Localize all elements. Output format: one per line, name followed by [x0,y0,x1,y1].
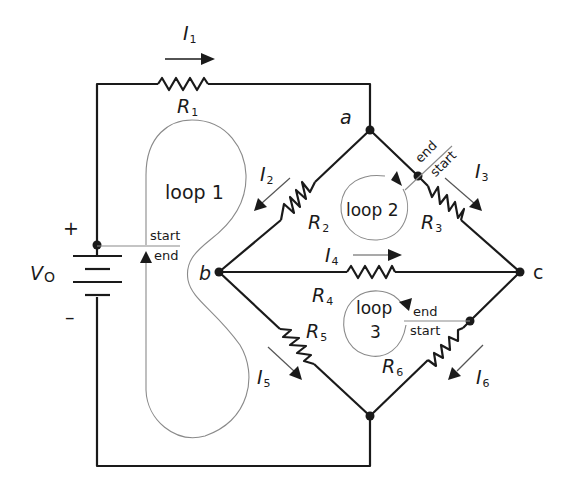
i4-arrowhead [388,249,402,261]
node-a-dot [366,126,375,135]
resistor-r6-label: R6 [382,357,403,376]
wire-b-r5 [219,272,280,329]
loop1-label: loop 1 [165,183,224,202]
source-vo-label: VO [30,264,55,283]
loop3-start-label: start [410,324,440,337]
wire-r5-bottom [314,364,370,416]
wire-left-top [97,84,158,245]
node-c-dot [516,268,525,277]
node-b-dot [215,268,224,277]
loop3-label-line1: loop [356,300,392,317]
loop1-end-label: end [154,249,179,262]
wire-r3-c [461,220,520,272]
battery-minus-label: – [65,308,75,327]
i5-arrow-shaft [268,347,295,372]
current-i6-label: I6 [476,368,490,387]
loop1-start-label: start [150,229,180,242]
current-i5-label: I5 [257,368,271,387]
loop2-node-dot [414,172,423,181]
loop1-arrowhead [140,251,152,263]
resistor-r4-label: R4 [312,286,333,305]
current-i1-label: I1 [183,24,197,43]
circuit-diagram [0,0,572,496]
current-i2-label: I2 [260,165,274,184]
loop2-arrowhead [391,171,402,186]
wire-bottom [97,297,370,466]
current-i3-label: I3 [475,162,489,181]
i1-arrowhead [201,53,215,65]
loop3-label-line2: 3 [370,324,381,341]
wire-r2-b [219,220,281,272]
resistor-r3-label: R3 [421,213,442,232]
node-battery-dot [93,241,102,250]
battery-plus-label: + [63,219,79,238]
node-bottom-dot [366,412,375,421]
i3-arrow-shaft [445,178,475,204]
wire-a-r2 [315,130,370,182]
loop2-label: loop 2 [346,202,399,219]
resistor-r1 [158,78,208,90]
node-c-label: c [533,263,543,282]
current-i4-label: I4 [325,246,339,265]
wires [73,78,520,466]
resistor-r5-label: R5 [306,322,327,341]
resistor-r4 [347,266,395,278]
resistor-r2-label: R2 [308,213,329,232]
loop3-end-label: end [413,305,438,318]
node-a-label: a [340,108,352,127]
loop3-arrowhead [399,298,412,311]
node-b-label: b [199,264,211,283]
resistor-r1-label: R1 [177,97,198,116]
loop1-path [146,120,249,438]
